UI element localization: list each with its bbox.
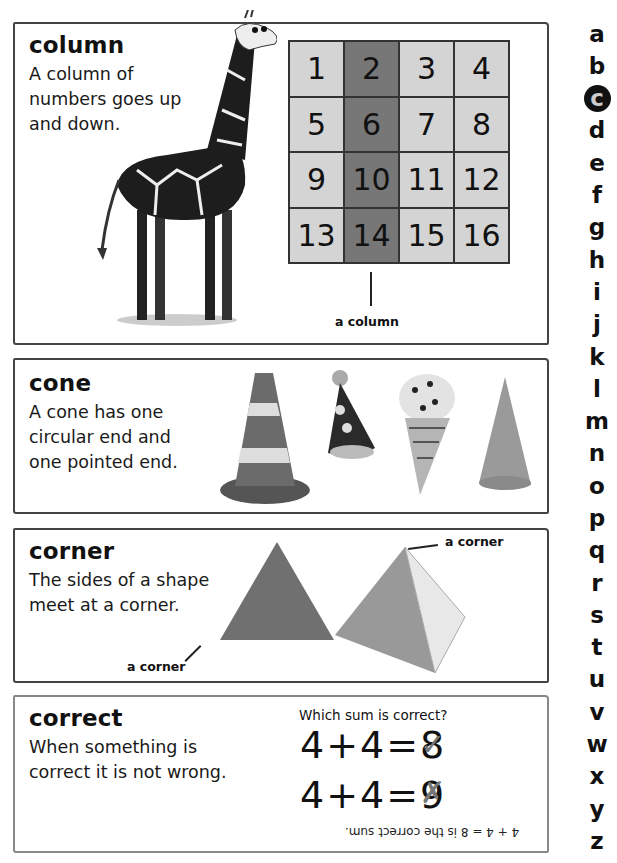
- alphabet-letter-w[interactable]: w: [583, 728, 611, 760]
- alphabet-letter-q[interactable]: q: [583, 535, 611, 567]
- grid-cell: 8: [455, 98, 508, 152]
- entry-column: column A column of numbers goes up and d…: [13, 22, 549, 345]
- alphabet-index: a b c d e f g h i j k l m n o p q r s t …: [583, 18, 611, 858]
- alphabet-letter-f[interactable]: f: [583, 179, 611, 211]
- grid-cell: 15: [400, 209, 453, 263]
- alphabet-letter-e[interactable]: e: [583, 147, 611, 179]
- alphabet-letter-p[interactable]: p: [583, 502, 611, 534]
- entry-definition: The sides of a shape meet at a corner.: [29, 568, 209, 618]
- alphabet-letter-d[interactable]: d: [583, 115, 611, 147]
- grid-cell-highlighted: 6: [345, 98, 398, 152]
- grid-cell-highlighted: 2: [345, 42, 398, 96]
- alphabet-letter-j[interactable]: j: [583, 309, 611, 341]
- alphabet-letter-s[interactable]: s: [583, 599, 611, 631]
- alphabet-letter-x[interactable]: x: [583, 761, 611, 793]
- grid-cell: 4: [455, 42, 508, 96]
- entry-definition: A cone has one circular end and one poin…: [29, 400, 178, 475]
- corner-pointer-line: [184, 645, 201, 662]
- alphabet-letter-h[interactable]: h: [583, 244, 611, 276]
- question-text: Which sum is correct?: [299, 707, 447, 723]
- alphabet-letter-a[interactable]: a: [583, 18, 611, 50]
- column-label: a column: [335, 314, 399, 329]
- grid-cell: 12: [455, 153, 508, 207]
- giraffe-illustration: [77, 10, 277, 340]
- alphabet-letter-b[interactable]: b: [583, 50, 611, 82]
- grid-cell: 3: [400, 42, 453, 96]
- grid-cell: 1: [290, 42, 343, 96]
- entry-definition: When something is correct it is not wron…: [29, 735, 226, 785]
- alphabet-letter-k[interactable]: k: [583, 341, 611, 373]
- entry-cone: cone A cone has one circular end and one…: [13, 358, 549, 514]
- alphabet-letter-m[interactable]: m: [583, 405, 611, 437]
- alphabet-letter-n[interactable]: n: [583, 438, 611, 470]
- grid-cell-highlighted: 14: [345, 209, 398, 263]
- pyramid-illustration: [335, 545, 485, 675]
- alphabet-letter-c-active[interactable]: c: [584, 85, 611, 112]
- grid-cell: 9: [290, 153, 343, 207]
- grid-cell: 5: [290, 98, 343, 152]
- alphabet-letter-r[interactable]: r: [583, 567, 611, 599]
- alphabet-letter-i[interactable]: i: [583, 276, 611, 308]
- entry-word: cone: [29, 370, 91, 396]
- corner-label: a corner: [127, 659, 186, 674]
- grid-cell: 11: [400, 153, 453, 207]
- alphabet-letter-z[interactable]: z: [583, 825, 611, 857]
- number-grid: 1 2 3 4 5 6 7 8 9 10 11 12 13 14 15 16: [288, 40, 510, 264]
- alphabet-letter-v[interactable]: v: [583, 696, 611, 728]
- plain-cone-illustration: [475, 375, 535, 495]
- triangle-illustration: [220, 542, 335, 642]
- entry-corner: corner The sides of a shape meet at a co…: [13, 528, 549, 683]
- entry-correct: correct When something is correct it is …: [13, 695, 549, 853]
- grid-cell: 16: [455, 209, 508, 263]
- traffic-cone-illustration: [215, 368, 315, 508]
- grid-cell: 13: [290, 209, 343, 263]
- entry-word: corner: [29, 538, 114, 564]
- ice-cream-cone-illustration: [395, 370, 465, 500]
- alphabet-letter-o[interactable]: o: [583, 470, 611, 502]
- column-pointer-line: [370, 272, 372, 306]
- grid-cell: 7: [400, 98, 453, 152]
- check-mark-icon: ✓: [420, 727, 445, 762]
- corner-label: a corner: [445, 534, 504, 549]
- cross-mark-icon: ✗: [420, 775, 445, 810]
- grid-cell-highlighted: 10: [345, 153, 398, 207]
- entry-word: correct: [29, 705, 123, 731]
- alphabet-letter-t[interactable]: t: [583, 632, 611, 664]
- alphabet-letter-u[interactable]: u: [583, 664, 611, 696]
- alphabet-letter-l[interactable]: l: [583, 373, 611, 405]
- alphabet-letter-g[interactable]: g: [583, 212, 611, 244]
- alphabet-letter-y[interactable]: y: [583, 793, 611, 825]
- party-hat-illustration: [320, 368, 380, 468]
- answer-upside-down: 4 + 4 = 8 is the correct sum.: [345, 825, 519, 839]
